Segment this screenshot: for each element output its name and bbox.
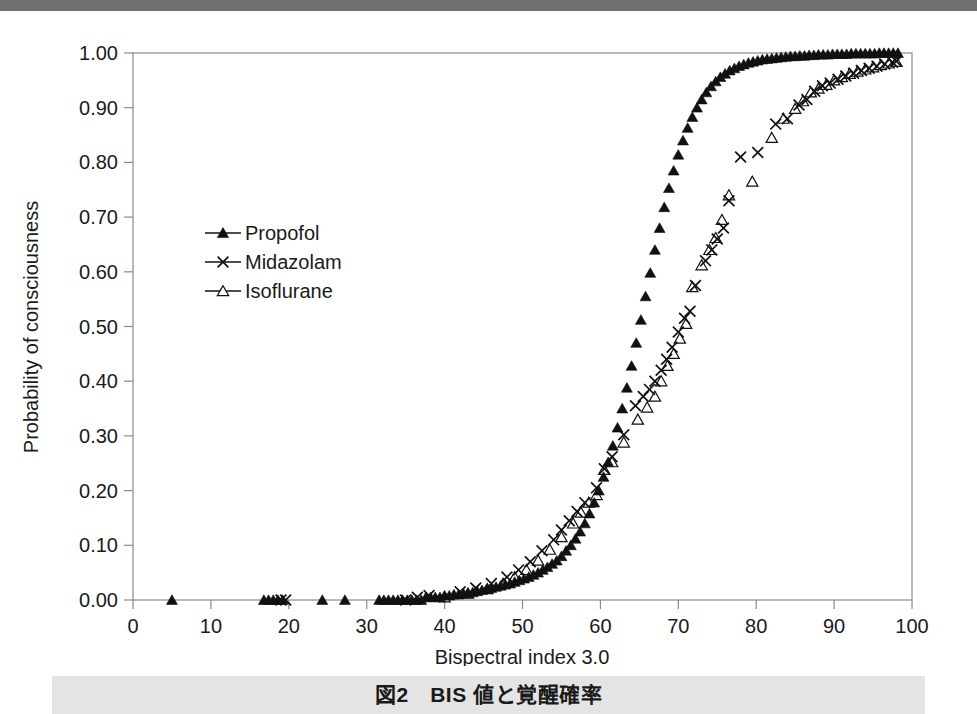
y-tick-label: 0.90 bbox=[79, 97, 118, 119]
y-tick-label: 0.60 bbox=[79, 261, 118, 283]
data-point bbox=[659, 202, 670, 212]
x-tick-label: 30 bbox=[356, 615, 378, 637]
x-tick-label: 0 bbox=[127, 615, 138, 637]
y-axis-ticks: 0.000.100.200.300.400.500.600.700.800.90… bbox=[79, 42, 133, 611]
legend-label: Propofol bbox=[245, 222, 320, 244]
x-tick-label: 10 bbox=[200, 615, 222, 637]
plot-border bbox=[133, 53, 912, 600]
y-tick-label: 0.40 bbox=[79, 370, 118, 392]
plot-area-rect bbox=[133, 53, 912, 600]
caption-band: 図2 BIS 値と覚醒確率 bbox=[52, 676, 925, 714]
series-isoflurane bbox=[439, 56, 902, 602]
data-point bbox=[649, 391, 660, 401]
data-point bbox=[663, 183, 674, 193]
data-point bbox=[631, 338, 642, 348]
data-point bbox=[621, 383, 632, 393]
data-point bbox=[617, 403, 628, 413]
data-point bbox=[584, 508, 595, 518]
x-axis-ticks: 0102030405060708090100 bbox=[127, 600, 928, 637]
legend-label: Isoflurane bbox=[245, 280, 333, 302]
y-tick-label: 0.70 bbox=[79, 206, 118, 228]
data-point bbox=[747, 176, 758, 186]
data-point bbox=[673, 150, 684, 160]
legend-item-isoflurane: Isoflurane bbox=[205, 280, 333, 302]
data-point bbox=[607, 441, 618, 451]
figure-caption: 図2 BIS 値と覚醒確率 bbox=[52, 676, 925, 714]
y-tick-label: 1.00 bbox=[79, 42, 118, 64]
data-point bbox=[766, 132, 777, 142]
y-tick-label: 0.50 bbox=[79, 316, 118, 338]
probability-of-consciousness-chart: 0.000.100.200.300.400.500.600.700.800.90… bbox=[0, 11, 977, 666]
chart-legend: PropofolMidazolamIsoflurane bbox=[205, 222, 342, 302]
data-point bbox=[612, 422, 623, 432]
x-tick-label: 50 bbox=[511, 615, 533, 637]
data-point bbox=[687, 112, 698, 122]
data-point bbox=[752, 147, 763, 158]
data-point bbox=[668, 165, 679, 175]
top-decorative-band bbox=[0, 0, 977, 11]
x-tick-label: 70 bbox=[667, 615, 689, 637]
data-series-layer bbox=[166, 48, 903, 606]
x-tick-label: 60 bbox=[589, 615, 611, 637]
data-point bbox=[640, 291, 651, 301]
y-tick-label: 0.30 bbox=[79, 425, 118, 447]
y-tick-label: 0.80 bbox=[79, 151, 118, 173]
y-tick-label: 0.00 bbox=[79, 589, 118, 611]
data-point bbox=[685, 306, 696, 317]
series-midazolam bbox=[276, 56, 902, 606]
data-point bbox=[635, 315, 646, 325]
legend-label: Midazolam bbox=[245, 251, 342, 273]
x-tick-label: 80 bbox=[745, 615, 767, 637]
y-tick-label: 0.10 bbox=[79, 534, 118, 556]
data-point bbox=[626, 361, 637, 371]
chart-container: 0.000.100.200.300.400.500.600.700.800.90… bbox=[0, 11, 977, 666]
data-point bbox=[678, 135, 689, 145]
x-axis-title: Bispectral index 3.0 bbox=[435, 646, 610, 666]
figure-page: 0.000.100.200.300.400.500.600.700.800.90… bbox=[0, 0, 977, 714]
data-point bbox=[641, 402, 652, 412]
data-point bbox=[654, 223, 665, 233]
y-axis-title: Probability of consciousness bbox=[20, 201, 42, 453]
data-point bbox=[630, 400, 641, 411]
data-point bbox=[579, 518, 590, 528]
data-point bbox=[682, 123, 693, 133]
data-point bbox=[632, 414, 643, 424]
y-tick-label: 0.20 bbox=[79, 480, 118, 502]
legend-item-propofol: Propofol bbox=[205, 222, 320, 244]
data-point bbox=[735, 152, 746, 163]
data-point bbox=[645, 268, 656, 278]
data-point bbox=[649, 245, 660, 255]
series-propofol bbox=[166, 48, 903, 605]
x-tick-label: 40 bbox=[433, 615, 455, 637]
data-point bbox=[513, 565, 524, 576]
data-point bbox=[770, 119, 781, 130]
x-tick-label: 100 bbox=[895, 615, 928, 637]
data-point bbox=[723, 190, 734, 200]
legend-item-midazolam: Midazolam bbox=[205, 251, 342, 273]
x-tick-label: 20 bbox=[278, 615, 300, 637]
x-tick-label: 90 bbox=[823, 615, 845, 637]
